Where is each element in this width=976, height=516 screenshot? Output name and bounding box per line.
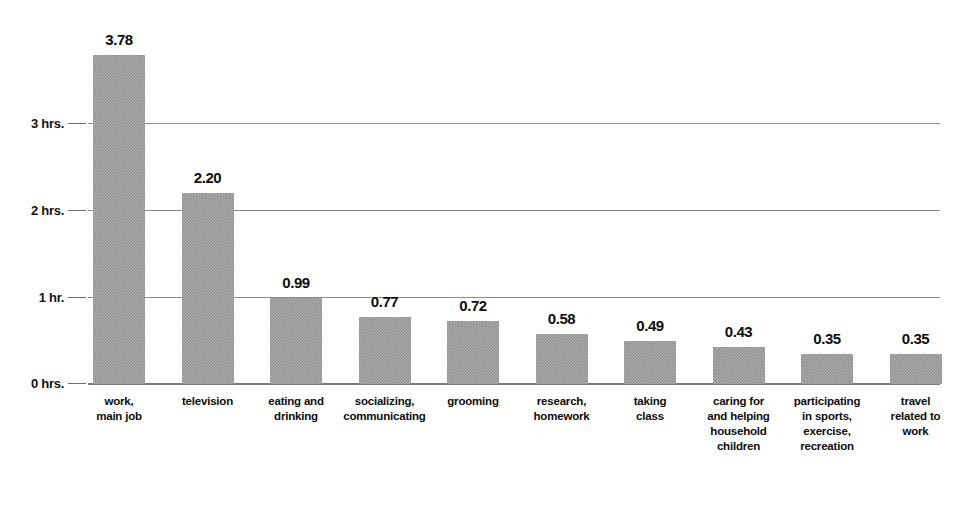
bar [801,354,853,384]
category-label: television [160,394,256,409]
category-label-line: communicating [337,409,433,424]
category-label-line: and helping [691,409,787,424]
tick-stub-1hr [68,297,86,298]
category-label: participatingin sports,exercise,recreati… [779,394,875,454]
category-label-line: in sports, [779,409,875,424]
category-label: research,homework [514,394,610,424]
bar-value-label: 0.99 [256,274,336,291]
bar-value-label: 0.77 [345,293,425,310]
category-label-line: work [868,424,964,439]
bar [536,334,588,384]
category-label-line: class [602,409,698,424]
category-label-line: children [691,439,787,454]
ytick-label-2hrs: 2 hrs. [31,203,64,218]
bar-chart: 3 hrs. 2 hrs. 1 hr. 0 hrs. 3.78work,main… [0,0,976,516]
category-label-line: household [691,424,787,439]
bar [359,317,411,384]
category-label-line: taking [602,394,698,409]
bar [624,341,676,384]
category-label-line: research, [514,394,610,409]
category-label: caring forand helpinghouseholdchildren [691,394,787,454]
bar-value-label: 0.35 [787,330,867,347]
category-label: grooming [425,394,521,409]
category-label-line: drinking [248,409,344,424]
ytick-label-0hrs: 0 hrs. [31,376,64,391]
category-label-line: socializing, [337,394,433,409]
category-label-line: travel [868,394,964,409]
category-label-line: eating and [248,394,344,409]
bar [890,354,942,384]
bar-value-label: 0.58 [522,310,602,327]
tick-stub-0hrs [68,383,86,384]
bar [93,55,145,384]
category-label: socializing,communicating [337,394,433,424]
ytick-label-3hrs: 3 hrs. [31,116,64,131]
bar [182,193,234,384]
bar-value-label: 0.49 [610,317,690,334]
ytick-label-1hr: 1 hr. [39,290,64,305]
category-label-line: caring for [691,394,787,409]
category-label-line: work, [71,394,167,409]
bar [713,347,765,384]
bar-value-label: 3.78 [79,31,159,48]
bar-value-label: 0.35 [876,330,956,347]
category-label: eating anddrinking [248,394,344,424]
tick-stub-2hrs [68,210,86,211]
bar-value-label: 0.43 [699,323,779,340]
category-label-line: recreation [779,439,875,454]
category-label-line: related to [868,409,964,424]
category-label-line: homework [514,409,610,424]
category-label-line: participating [779,394,875,409]
tick-stub-3hrs [68,123,86,124]
bar [270,298,322,384]
bar-value-label: 2.20 [168,169,248,186]
category-label-line: grooming [425,394,521,409]
category-label: takingclass [602,394,698,424]
bar [447,321,499,384]
category-label-line: television [160,394,256,409]
category-label: travelrelated towork [868,394,964,439]
category-label-line: exercise, [779,424,875,439]
bar-value-label: 0.72 [433,297,513,314]
category-label-line: main job [71,409,167,424]
category-label: work,main job [71,394,167,424]
gridline-3hrs [88,123,940,124]
